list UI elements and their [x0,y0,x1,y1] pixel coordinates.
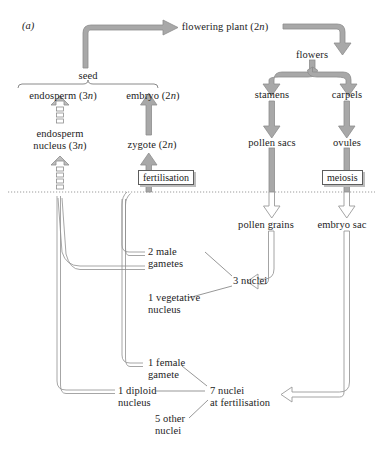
line-diploid-nucleus-to-fertilisation-2 [61,196,116,394]
node-two-male-gametes: 2 male gametes [148,246,183,270]
node-seven-nuclei: 7 nuclei at fertilisation [210,385,270,409]
node-carpels: carpels [332,89,362,101]
node-one-female-gamete: 1 female gamete [148,357,185,381]
panel-label: (a) [22,20,34,31]
node-pollen-grains: pollen grains [238,219,294,231]
line-two-male-gametes-to-fertilisation-2 [126,194,146,256]
line-female-gamete-to-fertilisation-2 [126,199,144,367]
node-flowering-plant: flowering plant (2n) [182,21,269,33]
node-endosperm-nucleus-line2: nucleus (3n) [33,140,86,152]
arrow-embryo-sac-to-seven-nuclei [281,231,350,402]
dash-seg-l4 [57,185,64,189]
arrow-pollen-sacs-shaft-solid [269,148,275,192]
node-five-other-nuclei-line2: nuclei [155,425,185,437]
arrow-stamens-to-pollen-sacs [264,101,281,138]
node-one-female-gamete-line1: 1 female [148,357,185,369]
node-one-vegetative-nucleus-line1: 1 vegetative [148,292,200,304]
leader-female-gamete-to-seven-nuclei [182,366,207,386]
node-five-other-nuclei-line1: 5 other [155,413,185,425]
node-stamens: stamens [255,89,290,101]
dash-seg-l2 [57,173,64,177]
meiosis-box[interactable]: meiosis [322,170,363,185]
dash-seg-u2 [57,113,64,117]
node-seven-nuclei-line1: 7 nuclei [210,385,270,397]
node-endosperm-nucleus: endosperm nucleus (3n) [33,128,86,152]
node-embryo-sac: embryo sac [317,219,366,231]
line-diploid-nucleus-to-fertilisation [57,196,115,390]
arrowhead-endosperm-lower [51,156,69,165]
node-ovules: ovules [333,137,361,149]
node-two-male-gametes-line1: 2 male [148,246,183,258]
node-one-diploid-nucleus-line1: 1 diploid [118,385,157,397]
node-one-vegetative-nucleus-line2: nucleus [148,304,200,316]
arrow-seed-to-flowering-plant [83,20,178,68]
arrow-to-embryo-sac-hollow [339,192,356,218]
dash-seg-l1 [57,167,64,171]
line-vegetative-nucleus-to-fertilisation-2 [62,198,145,270]
arrow-to-pollen-grains-hollow [264,192,281,218]
node-endosperm: endosperm (3n) [29,90,97,102]
node-flowers: flowers [296,49,328,61]
node-zygote: zygote (2n) [127,139,176,151]
node-seed: seed [78,70,97,82]
dash-seg-u3 [57,119,64,123]
node-one-female-gamete-line2: gamete [148,369,185,381]
node-seven-nuclei-line2: at fertilisation [210,397,270,409]
node-one-diploid-nucleus-line2: nucleus [118,397,157,409]
dash-seg-u1 [57,107,64,111]
node-three-nuclei: 3 nuclei [233,275,267,287]
node-one-diploid-nucleus: 1 diploid nucleus [118,385,157,409]
node-pollen-sacs: pollen sacs [248,137,295,149]
leader-male-gametes-to-three-nuclei [205,252,232,276]
node-embryo: embryo (2n) [126,90,179,102]
node-two-male-gametes-line2: gametes [148,258,183,270]
node-one-vegetative-nucleus: 1 vegetative nucleus [148,292,200,316]
fertilisation-box[interactable]: fertilisation [138,170,194,185]
node-endosperm-nucleus-line1: endosperm [33,128,86,140]
dash-seg-l3 [57,179,64,183]
arrow-carpels-to-ovules [339,101,356,138]
node-five-other-nuclei: 5 other nuclei [155,413,185,437]
leader-five-other-to-seven-nuclei [189,400,208,418]
